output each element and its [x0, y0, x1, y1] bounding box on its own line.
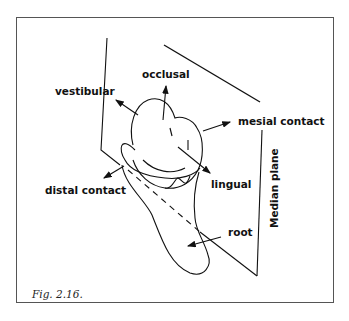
- label-root: root: [228, 226, 253, 238]
- vestibular-arrow: [116, 100, 138, 115]
- distal-arrow: [104, 166, 124, 178]
- label-mesial-contact: mesial contact: [238, 115, 325, 127]
- label-occlusal: occlusal: [142, 68, 190, 80]
- direction-arrows: [104, 86, 230, 246]
- figure-caption: Fig. 2.16.: [32, 288, 83, 300]
- tooth-diagram: occlusal vestibular mesial contact dista…: [0, 0, 349, 321]
- mesial-arrow: [203, 122, 230, 131]
- tooth-root: [122, 165, 209, 274]
- label-vestibular: vestibular: [55, 85, 116, 97]
- label-lingual: lingual: [211, 178, 251, 190]
- label-distal-contact: distal contact: [45, 184, 126, 196]
- label-median-plane: Median plane: [268, 148, 280, 228]
- vestibular-plane-lines: [101, 38, 120, 165]
